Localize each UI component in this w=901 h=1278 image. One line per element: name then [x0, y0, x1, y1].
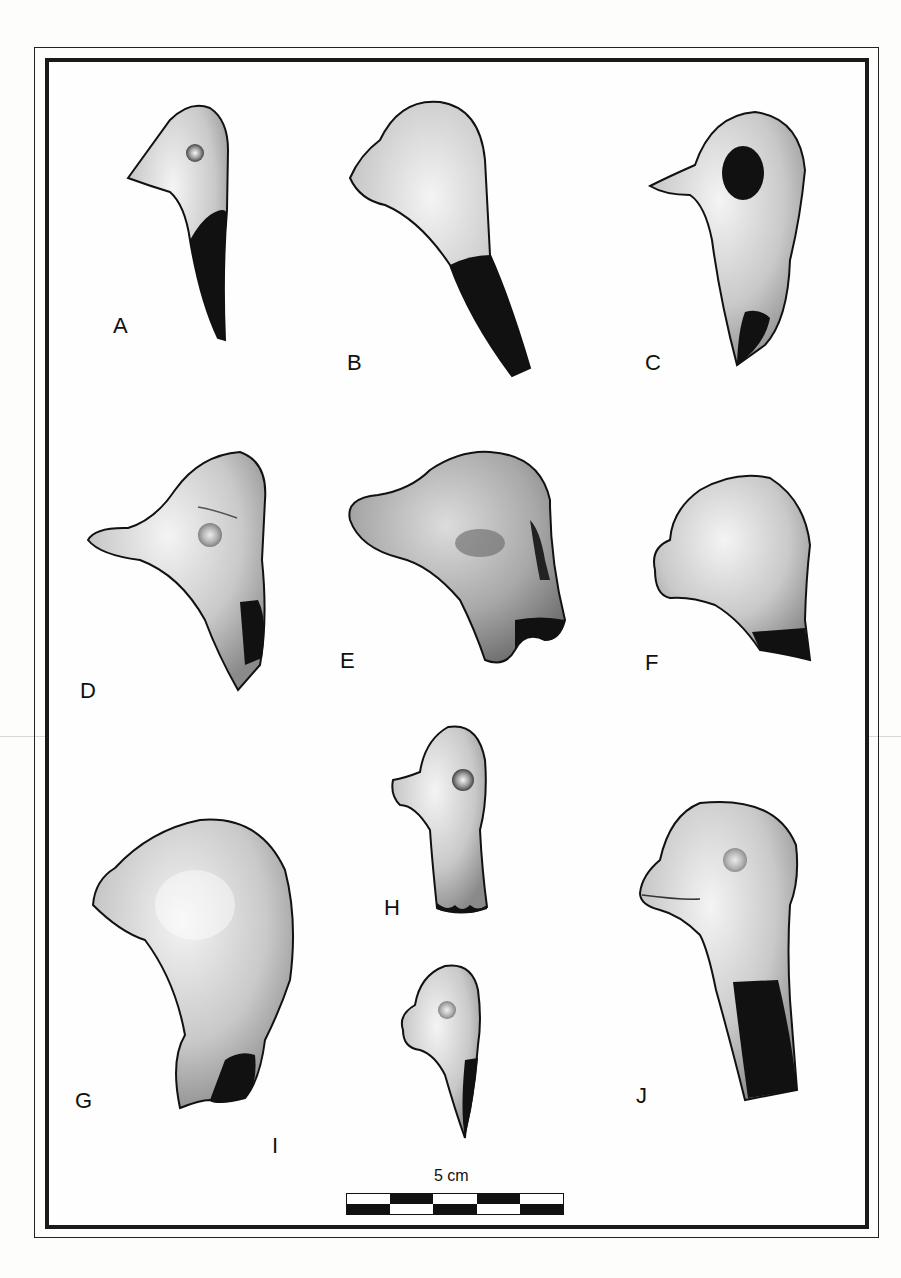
scale-segment [390, 1204, 433, 1214]
scale-segment [347, 1194, 390, 1204]
figure-label-g: G [75, 1090, 92, 1112]
figure-label-j: J [636, 1085, 647, 1107]
scale-bar-bottom-row [347, 1204, 563, 1214]
scale-bar-top-row [347, 1194, 563, 1204]
figure-i [402, 966, 480, 1139]
scale-segment [390, 1194, 433, 1204]
figure-j [640, 802, 797, 1100]
scale-segment [433, 1194, 476, 1204]
figure-e [349, 452, 565, 663]
figure-a [128, 106, 228, 340]
figure-label-b: B [347, 352, 362, 374]
scale-bar [346, 1193, 564, 1215]
figure-label-e: E [340, 650, 355, 672]
figure-f [654, 476, 810, 660]
scale-label: 5 cm [434, 1167, 469, 1185]
scale-segment [477, 1194, 520, 1204]
scale-segment [347, 1204, 390, 1214]
figure-label-h: H [384, 897, 400, 919]
figure-label-a: A [113, 315, 128, 337]
scale-segment [433, 1204, 476, 1214]
figure-c [650, 112, 805, 365]
figure-g [93, 820, 293, 1108]
figure-d [88, 452, 265, 690]
scale-segment [520, 1194, 563, 1204]
figure-label-i: I [272, 1135, 278, 1157]
figure-label-c: C [645, 352, 661, 374]
figure-label-f: F [645, 652, 658, 674]
figure-b [350, 102, 530, 376]
figure-h [392, 726, 487, 913]
figurine-drawings [0, 0, 901, 1278]
figure-label-d: D [80, 680, 96, 702]
scale-segment [520, 1204, 563, 1214]
scale-segment [477, 1204, 520, 1214]
